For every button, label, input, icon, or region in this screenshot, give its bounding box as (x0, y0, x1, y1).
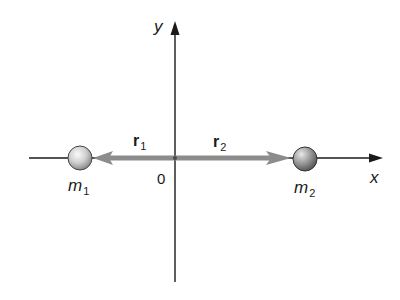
mass-m1-sphere-icon (68, 146, 92, 170)
diagram-canvas (0, 0, 400, 300)
y-axis-label-text: y (154, 17, 163, 36)
x-axis-label-text: x (370, 168, 379, 187)
vector-r1-label: r1 (133, 133, 146, 149)
vector-r2-name: r (213, 133, 219, 150)
y-axis-arrowhead-icon (171, 21, 180, 35)
mass-m1-subscript: 1 (83, 185, 89, 197)
two-mass-position-diagram: y x 0 r1 r2 m1 m2 (0, 0, 400, 300)
vector-r1 (93, 151, 175, 165)
origin-point (173, 156, 177, 160)
mass-m2-subscript: 2 (309, 187, 315, 199)
x-axis-arrowhead-icon (369, 154, 383, 163)
y-axis (171, 21, 180, 282)
vector-r2-label: r2 (213, 134, 226, 150)
origin-label-text: 0 (157, 170, 165, 187)
mass-m1-label: m1 (68, 177, 89, 194)
vector-r2 (175, 151, 291, 165)
mass-m2-sphere-icon (293, 147, 317, 171)
vector-r1-name: r (133, 132, 139, 149)
mass-m2-label: m2 (294, 179, 315, 196)
vector-r2-subscript: 2 (220, 141, 226, 153)
y-axis-label: y (154, 18, 163, 35)
x-axis-label: x (370, 169, 379, 186)
origin-label: 0 (157, 171, 165, 186)
mass-m1-name: m (68, 176, 82, 195)
mass-m2-name: m (294, 178, 308, 197)
vector-r1-subscript: 1 (140, 140, 146, 152)
